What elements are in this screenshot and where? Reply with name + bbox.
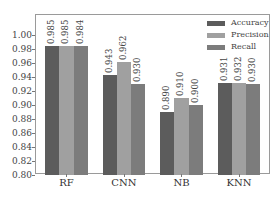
y-tick-label: 0.80	[0, 170, 32, 180]
x-tick-label: NB	[161, 177, 201, 188]
y-tick	[32, 49, 35, 50]
bar-value-label: 0.943	[105, 49, 114, 73]
y-tick	[32, 119, 35, 120]
bar-cnn-precision	[117, 62, 131, 175]
y-tick-label: 0.82	[0, 156, 32, 166]
y-tick	[32, 63, 35, 64]
bar-value-label: 0.985	[47, 19, 56, 43]
legend-swatch	[207, 21, 225, 26]
bar-rf-accuracy	[45, 46, 59, 176]
y-tick-label: 0.98	[0, 44, 32, 54]
bar-cnn-recall	[131, 84, 145, 175]
bar-knn-accuracy	[218, 83, 232, 175]
y-tick	[32, 175, 35, 176]
y-tick-label: 0.84	[0, 142, 32, 152]
bar-rf-recall	[74, 46, 88, 175]
y-tick	[32, 161, 35, 162]
y-tick	[32, 105, 35, 106]
bar-chart: 0.800.820.840.860.880.900.920.940.960.98…	[0, 0, 279, 197]
bar-value-label: 0.985	[61, 19, 70, 43]
legend-label: Accuracy	[231, 18, 268, 28]
legend-swatch	[207, 33, 225, 38]
legend-label: Precision	[231, 30, 269, 40]
bar-knn-precision	[232, 83, 246, 175]
x-tick-label: RF	[46, 177, 86, 188]
y-tick-label: 0.94	[0, 72, 32, 82]
legend: Accuracy Precision Recall	[205, 16, 267, 54]
legend-label: Recall	[231, 42, 256, 52]
y-tick	[32, 91, 35, 92]
bar-knn-recall	[246, 84, 260, 175]
bar-value-label: 0.900	[191, 79, 200, 103]
y-tick	[32, 77, 35, 78]
bar-nb-recall	[189, 105, 203, 175]
bar-value-label: 0.932	[234, 56, 243, 80]
y-tick	[32, 147, 35, 148]
bar-value-label: 0.890	[162, 86, 171, 110]
x-tick-label: CNN	[104, 177, 144, 188]
legend-swatch	[207, 45, 225, 50]
bar-value-label: 0.910	[176, 72, 185, 96]
y-tick-label: 0.86	[0, 128, 32, 138]
bar-nb-precision	[174, 98, 188, 175]
y-tick-label: 0.90	[0, 100, 32, 110]
bar-cnn-accuracy	[103, 75, 117, 175]
y-tick-label: 0.92	[0, 86, 32, 96]
bar-nb-accuracy	[160, 112, 174, 175]
bar-value-label: 0.962	[119, 35, 128, 59]
bar-value-label: 0.930	[248, 58, 257, 82]
x-tick-label: KNN	[219, 177, 259, 188]
y-tick-label: 0.96	[0, 58, 32, 68]
bar-value-label: 0.931	[220, 57, 229, 81]
y-tick	[32, 35, 35, 36]
bar-rf-precision	[59, 46, 73, 176]
bar-value-label: 0.984	[76, 20, 85, 44]
y-tick-label: 1.00	[0, 30, 32, 40]
y-tick	[32, 133, 35, 134]
y-tick-label: 0.88	[0, 114, 32, 124]
bar-value-label: 0.930	[133, 58, 142, 82]
